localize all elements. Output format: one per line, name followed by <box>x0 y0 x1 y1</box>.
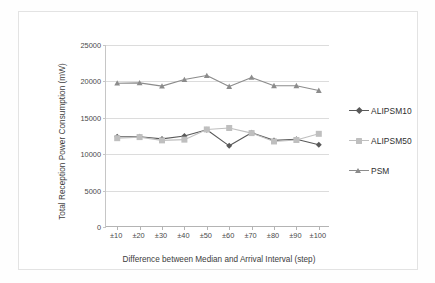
data-point-square <box>137 134 143 140</box>
x-axis-tickmark <box>117 227 118 230</box>
data-point-triangle <box>204 73 210 78</box>
x-axis-tickmark <box>162 227 163 230</box>
data-point-square <box>271 138 277 144</box>
x-axis-tickmark <box>207 227 208 230</box>
y-axis-tick-label: 15000 <box>59 113 101 122</box>
x-axis-tickmark <box>140 227 141 230</box>
data-point-diamond <box>316 142 322 148</box>
plot-area <box>105 45 329 227</box>
series-plot <box>106 45 330 227</box>
x-axis-tick-label: ±90 <box>289 231 301 240</box>
x-axis-tick-label: ±30 <box>155 231 167 240</box>
x-axis-title: Difference between Median and Arrival In… <box>79 255 359 264</box>
legend-item-alipsm50[interactable]: ALIPSM50 <box>349 134 435 147</box>
data-point-square <box>316 131 322 137</box>
series-line <box>117 76 319 91</box>
y-axis-tick-label: 0 <box>59 223 101 232</box>
y-axis-tick-label: 20000 <box>59 77 101 86</box>
data-point-square <box>249 130 255 136</box>
data-point-triangle <box>249 75 255 80</box>
x-axis-tick-labels: ±10±20±30±40±50±60±70±80±90±100 <box>105 231 329 245</box>
legend-item-psm[interactable]: PSM <box>349 164 435 177</box>
y-axis-tick-label: 25000 <box>59 41 101 50</box>
y-axis-tickmark <box>103 227 106 228</box>
legend-marker-icon <box>349 106 369 116</box>
legend-marker-icon <box>349 136 369 146</box>
x-axis-tick-label: ±50 <box>200 231 212 240</box>
x-axis-tick-label: ±70 <box>244 231 256 240</box>
x-axis-tick-label: ±60 <box>222 231 234 240</box>
series-psm <box>114 73 321 93</box>
x-axis-tick-label: ±20 <box>132 231 144 240</box>
data-point-square <box>293 137 299 143</box>
x-axis-tickmark <box>296 227 297 230</box>
legend-marker-icon <box>349 166 369 176</box>
legend-label: ALIPSM50 <box>371 136 412 146</box>
chart-legend: ALIPSM10ALIPSM50PSM <box>349 104 435 194</box>
series-alipsm50 <box>114 125 322 144</box>
data-point-square <box>181 137 187 143</box>
legend-label: ALIPSM10 <box>371 106 412 116</box>
legend-label: PSM <box>371 166 389 176</box>
data-point-square <box>226 125 232 131</box>
x-axis-tick-label: ±80 <box>267 231 279 240</box>
chart-frame: Total Reception Power Consumption (mW) 0… <box>18 11 418 270</box>
x-axis-tickmark <box>229 227 230 230</box>
x-axis-tick-label: ±40 <box>177 231 189 240</box>
data-point-square <box>114 135 120 141</box>
y-axis-tick-labels: 0500010000150002000025000 <box>59 40 101 232</box>
x-axis-tickmark <box>252 227 253 230</box>
x-axis-tick-label: ±10 <box>110 231 122 240</box>
y-axis-tick-label: 10000 <box>59 150 101 159</box>
y-axis-tick-label: 5000 <box>59 186 101 195</box>
x-axis-tickmark <box>319 227 320 230</box>
x-axis-tickmark <box>184 227 185 230</box>
x-axis-tickmark <box>274 227 275 230</box>
legend-item-alipsm10[interactable]: ALIPSM10 <box>349 104 435 117</box>
data-point-square <box>159 137 165 143</box>
x-axis-tick-label: ±100 <box>310 231 326 240</box>
data-point-square <box>204 126 210 132</box>
chart-figure: Total Reception Power Consumption (mW) 0… <box>0 0 435 283</box>
